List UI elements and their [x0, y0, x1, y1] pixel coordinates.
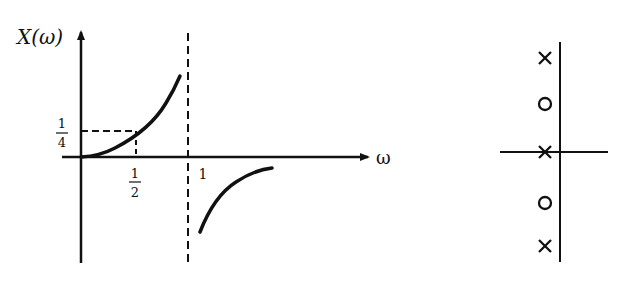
svg-text:1: 1	[58, 116, 66, 131]
zero-marker-2	[539, 197, 551, 209]
pole-marker-3	[539, 240, 551, 252]
svg-text:4: 4	[58, 135, 66, 150]
left-plot: X(ω) ω 1 4 1 2 1	[15, 25, 391, 263]
svg-text:2: 2	[131, 185, 139, 200]
curve-lower-branch	[200, 168, 272, 232]
x-tick-half: 1 2	[129, 166, 141, 200]
svg-text:1: 1	[131, 166, 139, 181]
x-axis-label: ω	[376, 147, 391, 168]
right-plot	[500, 42, 608, 262]
figure: X(ω) ω 1 4 1 2 1	[0, 0, 632, 290]
curve-upper-branch	[81, 76, 180, 157]
x-tick-one: 1	[199, 166, 208, 182]
zero-marker-1	[539, 98, 551, 110]
pole-marker-1	[539, 52, 551, 64]
y-tick-quarter: 1 4	[56, 116, 68, 150]
y-axis-label: X(ω)	[15, 25, 63, 49]
